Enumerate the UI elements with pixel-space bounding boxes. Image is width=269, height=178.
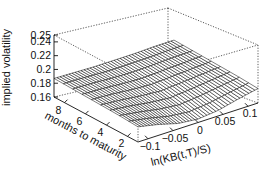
x-tick-label: 0.1 <box>243 107 258 119</box>
x-tick-label: 0.05 <box>215 115 236 127</box>
z-tick-label: 0.22 <box>31 49 52 61</box>
z-tick-label: 0.24 <box>31 35 52 47</box>
volatility-surface-chart: 0.250.240.220.20.180.16 8642 −0.1−0.0500… <box>0 0 269 178</box>
z-tick-label: 0.16 <box>31 91 52 103</box>
y-axis-title: months to maturity <box>43 109 129 162</box>
z-tick-label: 0.2 <box>36 63 51 75</box>
z-tick-label: 0.18 <box>31 77 52 89</box>
x-tick-label: −0.1 <box>140 140 161 152</box>
x-tick-label: −0.05 <box>162 132 189 144</box>
x-tick-label: 0 <box>197 124 203 136</box>
z-axis-title: implied volatility <box>0 28 12 106</box>
